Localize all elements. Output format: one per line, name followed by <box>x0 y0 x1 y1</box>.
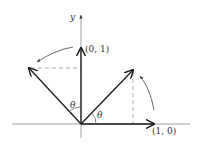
rotation-diagram: y (0, 1) (1, 0) θ θ <box>0 0 201 150</box>
vector-e1-rotated <box>81 70 133 124</box>
vector-e2-rotated <box>29 68 81 124</box>
y-axis-label: y <box>69 12 76 22</box>
rotation-arrow-left <box>37 47 73 62</box>
angle-label-left: θ <box>70 100 76 110</box>
vector-e2-label: (0, 1) <box>85 44 109 54</box>
vector-e1-label: (1, 0) <box>152 126 176 136</box>
angle-label-right: θ <box>97 110 103 120</box>
rotation-arrow-right <box>140 76 154 110</box>
angle-arc-right <box>92 113 96 124</box>
